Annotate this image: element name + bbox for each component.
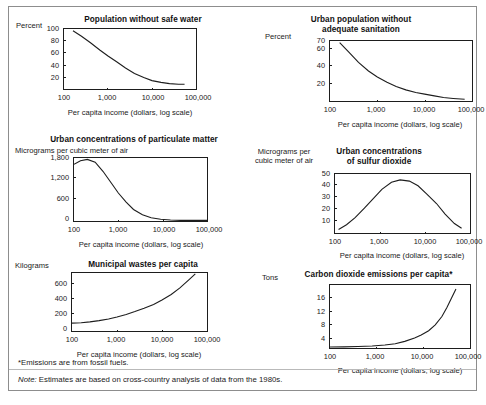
y-tick-label: 200 <box>37 310 67 317</box>
y-tick-mark <box>329 311 332 312</box>
x-tick-label: 100 <box>315 353 345 360</box>
y-tick-mark <box>334 184 337 185</box>
y-axis-unit-label: Micrograms per cubic meter of air <box>246 147 322 165</box>
curve-population-without-safe-water <box>64 29 196 89</box>
y-tick-label: 16 <box>302 294 325 301</box>
curve-urban-population-without-adequate-sanitation <box>330 41 472 101</box>
x-tick-label: 100 <box>49 94 79 101</box>
x-tick-mark <box>163 220 164 222</box>
footnote: *Emissions are from fossil fuels. <box>18 358 129 367</box>
panel-title-line-2: adequate sanitation <box>322 25 400 34</box>
plot-area <box>71 272 208 332</box>
y-tick-mark <box>329 83 332 84</box>
panel-title: Urban concentrations of particulate matt… <box>29 135 239 145</box>
x-tick-label: 100 <box>57 336 87 343</box>
y-axis-unit-label: Tons <box>262 273 278 282</box>
y-tick-label: 400 <box>37 295 67 302</box>
x-tick-label: 100 <box>315 106 345 113</box>
curve-urban-concentrations-of-particulate-matter <box>74 158 207 221</box>
y-tick-label: 1,200 <box>31 174 69 181</box>
panel-title-line-1: Urban concentrations <box>336 147 422 156</box>
y-tick-label: 0 <box>37 325 67 332</box>
x-tick-mark <box>423 347 424 349</box>
panel-title-line-2: of sulfur dioxide <box>347 157 412 166</box>
y-tick-label: 20 <box>33 74 59 81</box>
y-tick-mark <box>71 298 74 299</box>
x-tick-label: 10,000 <box>405 238 445 245</box>
y-tick-label: 8 <box>302 321 325 328</box>
figure-frame: Population without safe water Percent 10… <box>8 6 477 391</box>
x-tick-label: 10,000 <box>402 353 442 360</box>
y-tick-label: 50 <box>306 170 330 177</box>
y-tick-label: 1,800 <box>31 154 69 161</box>
x-tick-mark <box>107 88 108 90</box>
y-tick-label: 600 <box>31 195 69 202</box>
y-axis-unit-label: Percent <box>265 32 291 41</box>
note-text: Estimates are based on cross-country ana… <box>37 375 283 384</box>
x-tick-mark <box>376 347 377 349</box>
panel-population-without-safe-water: Population without safe water Percent 10… <box>9 7 244 135</box>
x-tick-label: 10,000 <box>144 226 184 233</box>
y-tick-label: 12 <box>302 308 325 315</box>
panel-title: Carbon dioxide emissions per capita* <box>286 270 471 280</box>
y-tick-label: 0 <box>31 215 69 222</box>
x-tick-label: 1,000 <box>89 94 125 101</box>
y-tick-label: 4 <box>302 335 325 342</box>
x-tick-mark <box>152 88 153 90</box>
x-tick-label: 100,000 <box>176 94 220 101</box>
y-tick-label: 100 <box>33 25 59 32</box>
y-tick-label: 40 <box>33 62 59 69</box>
x-axis-label: Per capita income (dollars, log scale) <box>50 108 210 117</box>
y-tick-mark <box>63 40 66 41</box>
x-tick-label: 1,000 <box>98 336 134 343</box>
x-tick-mark <box>425 232 426 234</box>
y-tick-label: 20 <box>306 205 330 212</box>
x-tick-label: 1,000 <box>361 238 397 245</box>
x-axis-label: Per capita income (dollars, log scale) <box>320 366 480 375</box>
x-tick-label: 100 <box>59 226 89 233</box>
x-tick-mark <box>380 232 381 234</box>
x-axis-label: Per capita income (dollars, log scale) <box>61 240 221 249</box>
x-tick-label: 10,000 <box>142 336 182 343</box>
y-axis-unit-line-2: cubic meter of air <box>255 156 313 165</box>
x-tick-label: 1,000 <box>100 226 136 233</box>
plot-area <box>329 40 473 102</box>
x-axis-label: Per capita income (dollars, log scale) <box>320 120 480 129</box>
x-tick-mark <box>117 330 118 332</box>
plot-area <box>63 28 197 90</box>
curve-urban-concentrations-of-sulfur-dioxide <box>335 174 470 233</box>
y-tick-mark <box>334 220 337 221</box>
y-tick-mark <box>71 313 74 314</box>
panel-title: Municipal wastes per capita <box>63 260 223 270</box>
x-tick-label: 100,000 <box>185 336 229 343</box>
y-tick-mark <box>73 198 76 199</box>
panel-urban-population-without-adequate-sanitation: Urban population without adequate sanita… <box>244 7 478 135</box>
y-tick-label: 10 <box>306 217 330 224</box>
panel-title: Urban population without adequate sanita… <box>286 15 436 34</box>
plot-area <box>334 173 471 234</box>
y-tick-mark <box>73 177 76 178</box>
panel-title-line-1: Urban population without <box>311 15 411 24</box>
x-tick-label: 100,000 <box>187 226 231 233</box>
y-tick-mark <box>329 48 332 49</box>
y-tick-mark <box>329 338 332 339</box>
note: Note: Estimates are based on cross-count… <box>18 375 282 384</box>
curve-carbon-dioxide-emissions-per-capita <box>330 285 470 348</box>
y-tick-mark <box>329 324 332 325</box>
y-tick-mark <box>329 297 332 298</box>
panel-urban-concentrations-of-particulate-matter: Urban concentrations of particulate matt… <box>9 129 244 259</box>
x-axis-label: Per capita income (dollars, log scale) <box>322 251 482 260</box>
plot-area <box>73 157 208 222</box>
y-tick-label: 40 <box>299 62 325 69</box>
panel-municipal-wastes-per-capita: Municipal wastes per capita Kilograms 60… <box>9 255 244 375</box>
y-tick-mark <box>63 52 66 53</box>
y-tick-label: 60 <box>299 45 325 52</box>
x-tick-label: 100 <box>320 238 350 245</box>
y-tick-mark <box>71 283 74 284</box>
x-tick-label: 10,000 <box>133 94 173 101</box>
note-divider <box>9 369 476 370</box>
y-tick-label: 80 <box>33 37 59 44</box>
x-tick-mark <box>377 100 378 102</box>
y-tick-label: 30 <box>306 193 330 200</box>
y-tick-mark <box>63 77 66 78</box>
